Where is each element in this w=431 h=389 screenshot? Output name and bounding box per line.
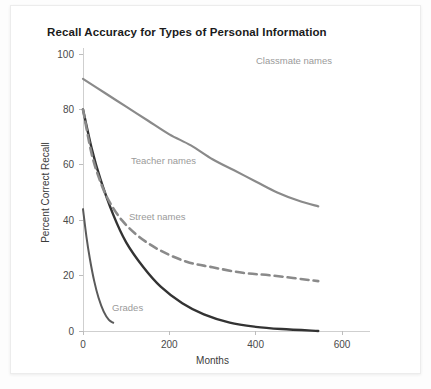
series-label-classmate-names: Classmate names	[256, 55, 332, 66]
screenshot-root: Recall Accuracy for Types of Personal In…	[0, 0, 431, 389]
y-tick-label: 60	[63, 159, 75, 170]
chart-card: Recall Accuracy for Types of Personal In…	[10, 5, 421, 374]
series-line-classmate-names	[83, 79, 318, 206]
recall-accuracy-line-chart: 0204060801000200400600 Classmate namesSt…	[11, 6, 422, 375]
x-tick-label: 0	[80, 339, 86, 350]
series-line-grades	[83, 209, 113, 323]
x-tick-label: 400	[247, 339, 264, 350]
y-axis-title: Percent Correct Recall	[40, 142, 51, 243]
y-tick-label: 20	[63, 270, 75, 281]
y-tick-label: 0	[68, 326, 74, 337]
series-line-street-names	[83, 109, 318, 331]
series-labels-layer: Classmate namesStreet namesTeacher names…	[112, 55, 332, 313]
x-axis-title: Months	[196, 355, 229, 366]
y-tick-label: 80	[63, 104, 75, 115]
series-layer	[83, 79, 318, 331]
series-label-street-names: Street names	[129, 211, 186, 222]
series-label-teacher-names: Teacher names	[131, 155, 196, 166]
x-tick-label: 200	[161, 339, 178, 350]
y-tick-label: 40	[63, 215, 75, 226]
x-tick-label: 600	[334, 339, 351, 350]
series-label-grades: Grades	[112, 302, 143, 313]
y-tick-label: 100	[57, 49, 74, 60]
